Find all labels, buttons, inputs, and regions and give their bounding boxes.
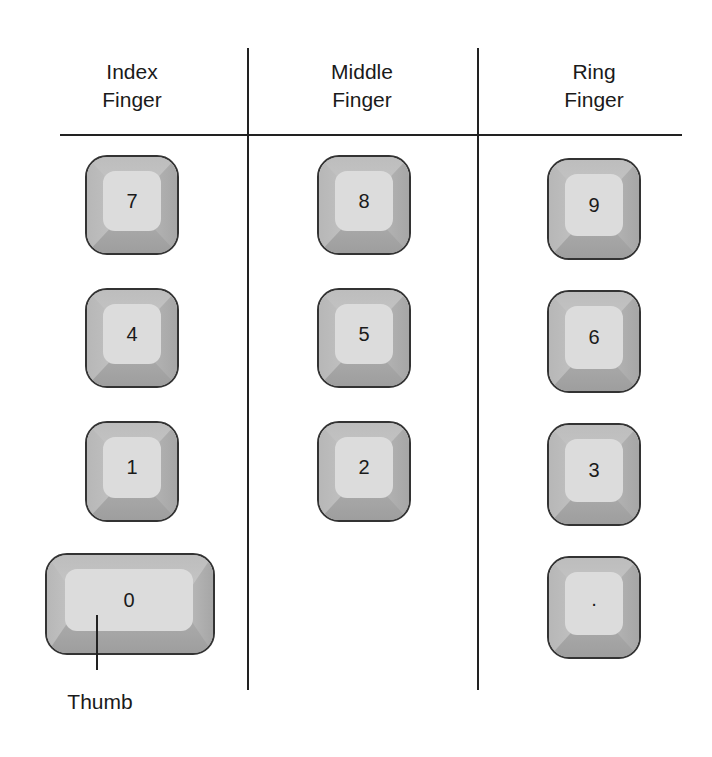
column-header-ring-finger: Ring Finger [494,58,694,114]
column-divider-1 [247,48,249,690]
key-1: 1 [85,421,179,522]
key-3: 3 [547,423,641,526]
key-6: 6 [547,290,641,393]
key-label: 5 [335,304,393,364]
key-label: · [565,572,623,635]
key-decimal: · [547,556,641,659]
key-2: 2 [317,421,411,522]
header-line-1: Middle [262,58,462,86]
key-9: 9 [547,158,641,260]
key-label: 8 [335,171,393,231]
key-4: 4 [85,288,179,388]
key-label: 0 [65,569,193,631]
header-line-1: Ring [494,58,694,86]
key-label: 9 [565,174,623,236]
key-label: 6 [565,306,623,369]
key-0: 0 [45,553,215,655]
key-label: 2 [335,437,393,498]
header-line-1: Index [32,58,232,86]
header-divider [60,134,682,136]
key-7: 7 [85,155,179,255]
header-line-2: Finger [32,86,232,114]
key-label: 7 [103,171,161,231]
thumb-label: Thumb [60,690,140,714]
column-divider-2 [477,48,479,690]
key-5: 5 [317,288,411,388]
thumb-pointer-line [96,615,98,670]
column-header-index-finger: Index Finger [32,58,232,114]
column-header-middle-finger: Middle Finger [262,58,462,114]
header-line-2: Finger [262,86,462,114]
header-line-2: Finger [494,86,694,114]
key-label: 1 [103,437,161,498]
key-label: 4 [103,304,161,364]
key-8: 8 [317,155,411,255]
key-label: 3 [565,439,623,502]
